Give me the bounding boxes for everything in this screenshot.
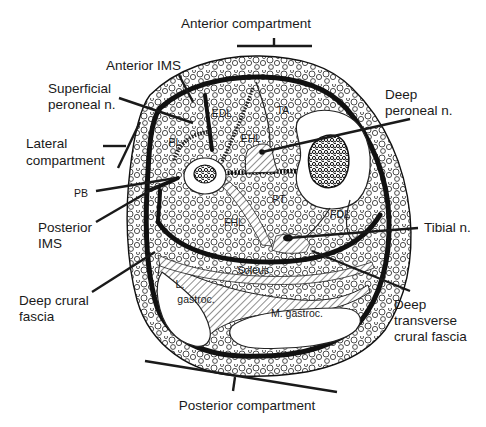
deep-transverse-line3: crural fascia: [394, 329, 467, 344]
deep-peroneal-line1: Deep: [385, 87, 417, 102]
anterior-compartment-label: Anterior compartment: [181, 16, 311, 31]
deep-crural-fascia-line1: Deep crural: [19, 293, 89, 308]
tibia-marrow: [309, 135, 349, 188]
lateral-compartment-label: Lateral compartment: [26, 136, 105, 168]
tibial-nerve-label: Tibial n.: [424, 220, 471, 235]
muscle-label-pt: PT: [272, 193, 286, 205]
posterior-ims-line2: IMS: [38, 236, 62, 251]
fibula-marrow: [194, 165, 216, 183]
muscle-label-fdl: FDL: [330, 208, 350, 220]
deep-crural-fascia-line2: fascia: [19, 309, 55, 324]
deep-peroneal-label: Deep peroneal n.: [385, 87, 453, 118]
lateral-compartment-line2: compartment: [26, 153, 105, 168]
muscle-label-pl: PL: [169, 136, 182, 148]
muscle-label-fhl: FHL: [224, 216, 244, 228]
muscle-label-soleus: Soleus: [237, 264, 269, 276]
muscle-label-ehl: EHL: [241, 132, 262, 144]
posterior-ims-label: Posterior IMS: [38, 220, 96, 251]
muscle-label-edl: EDL: [212, 107, 233, 119]
muscle-label-ta: TA: [277, 104, 290, 116]
lateral-compartment-line1: Lateral: [26, 136, 67, 151]
pb-label: PB: [74, 187, 88, 199]
muscle-label-l-gastroc-1: L.: [176, 278, 185, 290]
deep-transverse-line1: Deep: [394, 297, 426, 312]
deep-transverse-line2: transverse: [394, 313, 457, 328]
posterior-compartment-label: Posterior compartment: [179, 398, 316, 413]
muscle-label-m-gastroc: M. gastroc.: [271, 307, 323, 319]
leg-compartment-diagram: Anterior compartment Lateral compartment…: [0, 0, 486, 427]
superficial-peroneal-line2: peroneal n.: [48, 97, 116, 112]
anterior-compartment-bracket: [237, 38, 312, 46]
muscle-label-l-gastroc-2: gastroc.: [177, 293, 214, 305]
deep-peroneal-line2: peroneal n.: [385, 103, 453, 118]
deep-transverse-crural-fascia-label: Deep transverse crural fascia: [394, 297, 467, 344]
anterior-ims-label: Anterior IMS: [106, 58, 181, 73]
superficial-peroneal-line1: Superficial: [48, 81, 111, 96]
posterior-ims-line1: Posterior: [38, 220, 93, 235]
superficial-peroneal-label: Superficial peroneal n.: [48, 81, 116, 112]
deep-crural-fascia-label: Deep crural fascia: [19, 293, 93, 324]
